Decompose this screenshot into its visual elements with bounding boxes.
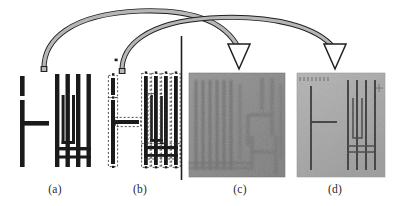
panel-a-arm	[20, 121, 49, 126]
panel-d-sem	[297, 73, 385, 177]
figure-canvas	[0, 0, 397, 206]
panel-a-inner-base	[62, 141, 75, 144]
arrow-b-to-d-head	[324, 44, 346, 69]
panel-b-tie-upper	[144, 146, 178, 149]
panel-a-inner-right	[72, 95, 75, 144]
panel-a-inner-left	[62, 95, 65, 144]
panel-b-finger-2	[154, 76, 158, 165]
panel-d-caption: (d)	[320, 183, 350, 195]
panel-c-caption: (c)	[225, 183, 255, 195]
panel-a-caption: (a)	[40, 183, 70, 195]
panel-a-finger-2	[66, 74, 70, 167]
panel-a-finger-1	[55, 74, 59, 167]
panel-b-stub	[111, 78, 115, 95]
panel-b-layout	[108, 59, 180, 169]
panel-b-caption: (b)	[125, 183, 155, 195]
arrow-a-to-c-tail	[41, 67, 47, 72]
panel-a-layout	[20, 74, 91, 167]
panel-c-sem	[189, 73, 285, 177]
arrow-b-to-d-tail	[119, 69, 125, 74]
panel-a-stub	[20, 76, 25, 96]
arrow-a-to-c-head	[228, 44, 250, 69]
panel-b-inner-left	[150, 96, 153, 142]
panel-a-finger-4	[87, 74, 91, 167]
panel-a-tie-lower	[55, 156, 91, 159]
panel-b-finger-1	[144, 76, 148, 165]
panel-b-trunk	[111, 100, 115, 164]
panel-b-inner-base	[150, 139, 163, 142]
panel-b-inner-right	[160, 96, 163, 142]
panel-b-finger-3	[164, 76, 168, 165]
panel-b-tie-lower	[144, 154, 178, 157]
panel-a-finger-3	[76, 74, 80, 167]
figure-root: (a) (b) (c) (d)	[0, 0, 397, 206]
panel-b-finger-4	[174, 76, 178, 165]
panel-a-trunk	[20, 100, 25, 167]
panel-a-tie-upper	[55, 147, 91, 150]
